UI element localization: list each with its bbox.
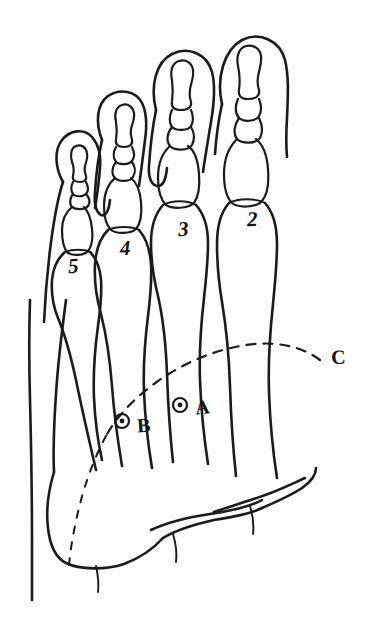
label-landmark-a: A <box>194 396 210 417</box>
metatarsal-2-head-lateral <box>265 203 277 478</box>
midfoot-lateral-edge <box>262 468 316 508</box>
toe-4-distal-phalanx <box>115 104 134 147</box>
figure-canvas: 5 4 3 2 A B C <box>0 0 365 618</box>
toe-2-proximal-phalanx <box>224 139 268 207</box>
metatarsal-3-head-lateral <box>196 205 208 464</box>
label-metatarsal-3: 3 <box>177 219 189 241</box>
label-metatarsal-2: 2 <box>247 209 258 230</box>
metatarsal-base-notch-c <box>250 506 253 534</box>
label-curve-c: C <box>330 347 345 368</box>
metatarsal-1-medial-border <box>29 300 32 600</box>
metatarsal-base-notch-a <box>96 566 98 592</box>
landmark-b-marker <box>115 414 129 428</box>
toe-2-soft-tissue-outline-lateral-tail <box>215 104 222 154</box>
metatarsal-base-notch-b <box>173 534 176 562</box>
toe-3-middle-phalanx <box>170 110 193 130</box>
toe-4-soft-tissue-outline-lateral <box>95 140 110 215</box>
toe-5-distal-phalanx <box>71 145 87 182</box>
foot-skeleton-drawing <box>0 0 365 618</box>
metatarsal-3-head-and-shaft <box>151 205 173 462</box>
landmark-a-marker <box>173 398 187 412</box>
label-landmark-b: B <box>136 415 151 436</box>
cuboid-base-outline <box>47 472 163 568</box>
toe-3-distal-phalanx <box>171 60 193 110</box>
metatarsal-2-head-and-shaft <box>217 203 236 476</box>
toe-2-distal-phalanx <box>237 46 261 99</box>
toe-2-soft-tissue-outline <box>220 37 288 157</box>
label-metatarsal-4: 4 <box>119 238 131 260</box>
label-metatarsal-5: 5 <box>67 256 79 278</box>
toe-5-proximal-phalanx <box>62 207 92 255</box>
